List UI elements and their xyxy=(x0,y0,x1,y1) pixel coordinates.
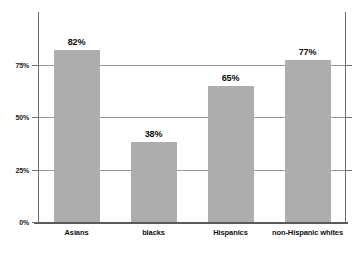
category-label: Hispanics xyxy=(213,228,248,237)
bar-chart: 0%25%50%75% 82%38%65%77% AsiansblacksHis… xyxy=(0,0,362,258)
y-axis-line xyxy=(38,12,39,224)
bar[interactable]: 82% xyxy=(54,50,100,222)
bar[interactable]: 77% xyxy=(285,60,331,222)
y-axis-tick-label: 0% xyxy=(19,219,29,226)
bar-value-label: 82% xyxy=(68,37,85,47)
y-tick-mark-left xyxy=(32,65,38,66)
bar-value-label: 77% xyxy=(299,47,316,57)
y-tick-mark-right xyxy=(346,117,352,118)
y-axis-right-line xyxy=(345,12,346,224)
y-tick-mark-left xyxy=(32,222,38,223)
y-tick-mark-left xyxy=(32,117,38,118)
bar-value-label: 65% xyxy=(222,73,239,83)
plot-area: 0%25%50%75% 82%38%65%77% xyxy=(38,12,346,224)
bar[interactable]: 38% xyxy=(131,142,177,222)
bar-value-label: 38% xyxy=(145,129,162,139)
y-tick-mark-right xyxy=(346,65,352,66)
y-axis-tick-label: 50% xyxy=(16,114,29,121)
x-axis-baseline xyxy=(34,222,348,224)
y-axis-tick-label: 75% xyxy=(16,61,29,68)
category-label: blacks xyxy=(142,228,165,237)
bar[interactable]: 65% xyxy=(208,86,254,223)
y-tick-mark-right xyxy=(346,170,352,171)
category-label: Asians xyxy=(65,228,89,237)
y-tick-mark-left xyxy=(32,170,38,171)
category-label: non-Hispanic whites xyxy=(272,228,343,237)
y-axis-tick-label: 25% xyxy=(16,166,29,173)
